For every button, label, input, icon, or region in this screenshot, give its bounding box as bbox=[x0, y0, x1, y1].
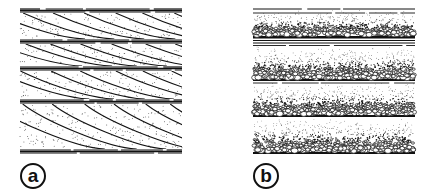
panel-a-cross-bedding bbox=[0, 9, 284, 153]
panel-b-label: b bbox=[253, 163, 279, 189]
panel-b-label-text: b bbox=[260, 166, 272, 185]
panel-b-graded-bedding bbox=[251, 9, 416, 154]
panel-a-label-text: a bbox=[28, 166, 39, 185]
panel-a-label: a bbox=[20, 163, 46, 189]
figure-canvas bbox=[0, 0, 435, 195]
